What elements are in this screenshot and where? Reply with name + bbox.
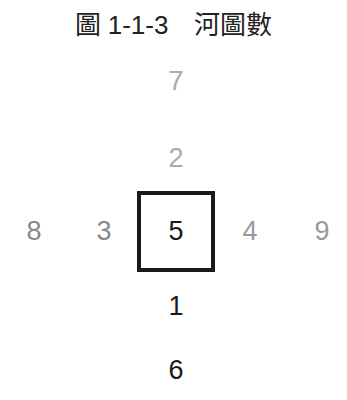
number-left-inner: 3: [84, 216, 124, 246]
number-right-outer: 9: [302, 216, 342, 246]
number-bottom-outer: 6: [156, 355, 196, 385]
number-top-inner: 2: [156, 143, 196, 173]
number-bottom-inner: 1: [156, 291, 196, 321]
number-center: 5: [156, 216, 196, 246]
number-top-outer: 7: [156, 66, 196, 96]
number-left-outer: 8: [14, 216, 54, 246]
number-right-inner: 4: [230, 216, 270, 246]
figure-title: 圖 1-1-3 河圖數: [0, 4, 347, 41]
